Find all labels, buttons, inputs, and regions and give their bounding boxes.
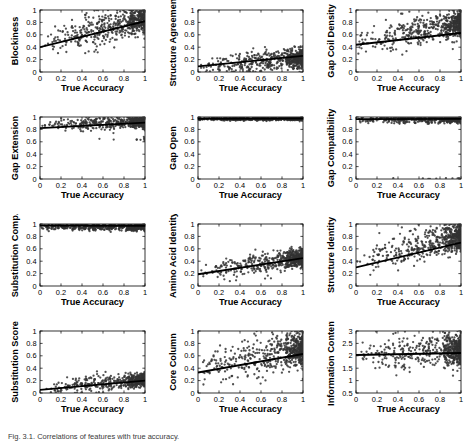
x-tick-label: 0.8 xyxy=(277,181,287,190)
y-tick-label: 1 xyxy=(32,327,36,336)
y-tick-label: 0.4 xyxy=(26,364,36,373)
x-tick-label: 0 xyxy=(196,181,200,190)
x-axis-label: True Accuracy xyxy=(377,404,441,414)
x-tick-label: 0.8 xyxy=(119,288,129,297)
x-tick-label: 0.4 xyxy=(77,288,87,297)
y-tick-label: 0.5 xyxy=(342,389,352,398)
x-tick-label: 0.2 xyxy=(372,181,382,190)
x-tick-label: 0.4 xyxy=(393,288,403,297)
y-tick-label: 0.2 xyxy=(26,55,36,64)
x-tick-label: 0.2 xyxy=(214,181,224,190)
x-axis-label: True Accuracy xyxy=(61,83,125,93)
y-tick-label: 0.2 xyxy=(184,55,194,64)
y-tick-label: 0.4 xyxy=(184,257,194,266)
y-axis-label: Gap Coil Density xyxy=(326,3,336,77)
x-tick-label: 0.4 xyxy=(235,181,245,190)
plot-frame xyxy=(356,117,461,179)
y-tick-label: 0.8 xyxy=(184,125,194,134)
y-axis-label: Gap Open xyxy=(168,126,178,170)
panel-amino-acid-identity: 00.20.40.60.8100.20.40.60.81Amino Acid I… xyxy=(158,214,316,321)
y-tick-label: 0.2 xyxy=(342,162,352,171)
x-tick-label: 0.8 xyxy=(277,288,287,297)
y-tick-label: 0.4 xyxy=(184,150,194,159)
y-tick-label: 0.6 xyxy=(184,30,194,39)
x-axis-label: True Accuracy xyxy=(219,83,283,93)
x-tick-label: 0.8 xyxy=(119,181,129,190)
x-tick-label: 0.4 xyxy=(235,288,245,297)
x-tick-label: 0.2 xyxy=(56,395,66,404)
x-axis-label: True Accuracy xyxy=(377,190,441,200)
x-tick-label: 0 xyxy=(196,395,200,404)
x-axis-label: True Accuracy xyxy=(219,297,283,307)
x-axis-label: True Accuracy xyxy=(61,190,125,200)
y-tick-label: 0 xyxy=(190,282,194,291)
x-tick-label: 0.4 xyxy=(77,74,87,83)
x-tick-label: 0.2 xyxy=(372,395,382,404)
y-tick-label: 0 xyxy=(32,68,36,77)
plot-frame xyxy=(40,224,145,286)
y-tick-label: 0.4 xyxy=(184,364,194,373)
y-tick-label: 0.8 xyxy=(26,18,36,27)
x-tick-label: 1 xyxy=(459,74,463,83)
panel-core-column: 00.20.40.60.8100.20.40.60.81Core ColumnT… xyxy=(158,321,316,430)
x-tick-label: 1 xyxy=(143,74,147,83)
x-tick-label: 0.2 xyxy=(372,288,382,297)
x-tick-label: 0.6 xyxy=(98,395,108,404)
y-tick-label: 1 xyxy=(190,220,194,229)
x-tick-label: 0 xyxy=(354,181,358,190)
x-tick-label: 1 xyxy=(459,288,463,297)
y-tick-label: 1 xyxy=(348,113,352,122)
y-tick-label: 0.8 xyxy=(26,125,36,134)
x-tick-label: 0.2 xyxy=(56,181,66,190)
y-tick-label: 0.4 xyxy=(26,150,36,159)
x-tick-label: 0.6 xyxy=(256,74,266,83)
y-tick-label: 0.6 xyxy=(26,244,36,253)
x-tick-label: 0.8 xyxy=(435,395,445,404)
x-tick-label: 0 xyxy=(38,74,42,83)
y-tick-label: 0.2 xyxy=(184,269,194,278)
y-tick-label: 0.8 xyxy=(26,339,36,348)
panel-substitution-score: 00.20.40.60.8100.20.40.60.81Substitution… xyxy=(0,321,158,430)
x-axis-label: True Accuracy xyxy=(219,190,283,200)
y-tick-label: 0 xyxy=(190,68,194,77)
y-tick-label: 3 xyxy=(348,327,352,336)
figure-caption: Fig. 3.1. Correlations of features with … xyxy=(8,432,468,447)
x-tick-label: 0.6 xyxy=(414,181,424,190)
x-tick-label: 0.6 xyxy=(256,395,266,404)
y-tick-label: 1.5 xyxy=(342,364,352,373)
y-tick-label: 0.6 xyxy=(184,351,194,360)
x-tick-label: 1 xyxy=(301,74,305,83)
y-tick-label: 0.6 xyxy=(26,137,36,146)
y-tick-label: 0.4 xyxy=(26,257,36,266)
y-axis-label: Substitution Score xyxy=(10,321,20,403)
x-tick-label: 0 xyxy=(354,74,358,83)
y-tick-label: 1 xyxy=(190,113,194,122)
y-tick-label: 1 xyxy=(32,220,36,229)
y-tick-label: 0.4 xyxy=(342,43,352,52)
y-tick-label: 0.4 xyxy=(342,257,352,266)
y-tick-label: 0 xyxy=(190,389,194,398)
y-tick-label: 0.6 xyxy=(26,30,36,39)
y-tick-label: 0.2 xyxy=(184,162,194,171)
panel-blockiness: 00.20.40.60.8100.20.40.60.81BlockinessTr… xyxy=(0,0,158,107)
y-tick-label: 0 xyxy=(32,389,36,398)
plot-frame xyxy=(198,117,303,179)
x-tick-label: 0 xyxy=(38,181,42,190)
panel-gap-extension: 00.20.40.60.8100.20.40.60.81Gap Extensio… xyxy=(0,107,158,214)
y-tick-label: 0.6 xyxy=(184,137,194,146)
y-tick-label: 0 xyxy=(190,175,194,184)
x-tick-label: 0.2 xyxy=(56,288,66,297)
y-tick-label: 1 xyxy=(348,376,352,385)
x-tick-label: 1 xyxy=(143,288,147,297)
y-tick-label: 1 xyxy=(190,6,194,15)
x-tick-label: 0.2 xyxy=(214,288,224,297)
panel-grid: 00.20.40.60.8100.20.40.60.81BlockinessTr… xyxy=(0,0,474,430)
y-tick-label: 0.4 xyxy=(184,43,194,52)
x-tick-label: 1 xyxy=(459,181,463,190)
y-tick-label: 0.6 xyxy=(184,244,194,253)
x-tick-label: 0.6 xyxy=(98,74,108,83)
y-tick-label: 0.2 xyxy=(26,162,36,171)
x-tick-label: 0.8 xyxy=(435,74,445,83)
y-tick-label: 1 xyxy=(190,327,194,336)
x-tick-label: 0 xyxy=(38,288,42,297)
